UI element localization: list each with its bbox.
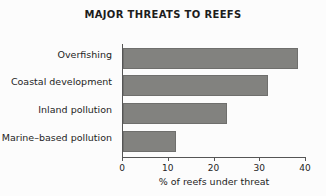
chart-title: MAJOR THREATS TO REEFS [0,9,326,20]
y-axis-label-0: Overfishing [0,44,117,65]
x-tick-label-2: 20 [199,163,229,173]
x-tick-mark-1 [168,157,169,161]
bar-chart-figure: MAJOR THREATS TO REEFS Overfishing Coast… [0,0,326,196]
x-tick-mark-2 [214,157,215,161]
bar-inland-pollution[interactable] [123,103,227,124]
bar-coastal-development[interactable] [123,75,268,96]
x-axis-title: % of reefs under threat [122,176,306,187]
bar-row-3 [123,131,176,152]
x-tick-label-3: 30 [244,163,274,173]
x-tick-label-4: 40 [290,163,320,173]
x-tick-mark-0 [122,157,123,161]
y-axis-label-2: Inland pollution [0,99,117,120]
bar-marine-based-pollution[interactable] [123,131,176,152]
y-axis-label-1: Coastal development [0,71,117,92]
x-tick-label-0: 0 [107,163,137,173]
plot-area: 0 10 20 30 40 [122,44,305,157]
bar-overfishing[interactable] [123,48,298,69]
bar-row-1 [123,75,268,96]
x-tick-mark-4 [305,157,306,161]
bar-row-2 [123,103,227,124]
bar-row-0 [123,48,298,69]
x-tick-label-1: 10 [153,163,183,173]
x-tick-mark-3 [259,157,260,161]
y-axis-category-labels: Overfishing Coastal development Inland p… [0,44,117,157]
y-axis-label-3: Marine–based pollution [0,127,117,148]
